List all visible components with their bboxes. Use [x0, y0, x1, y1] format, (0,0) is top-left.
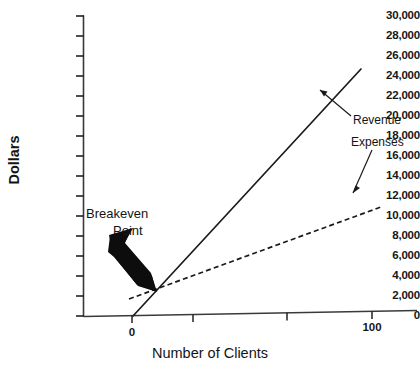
- breakeven-annotation-line1: Breakeven: [86, 207, 148, 220]
- y-tick-label: 10,000: [348, 210, 420, 222]
- x-axis-title: Number of Clients: [0, 345, 420, 361]
- y-tick-label: 6,000: [348, 250, 420, 262]
- y-tick-label: 12,000: [348, 190, 420, 202]
- series-label-expenses: Expenses: [351, 136, 404, 148]
- x-tick-label-0: 0: [120, 327, 144, 339]
- series-revenue-line: [133, 69, 361, 316]
- y-tick-label: 0: [348, 310, 420, 322]
- y-tick-label: 16,000: [348, 150, 420, 162]
- breakeven-chart: 30,000 28,000 26,000 24,000 22,000 20,00…: [0, 0, 420, 372]
- revenue-callout-leader: [320, 90, 351, 116]
- y-tick-label: 8,000: [348, 230, 420, 242]
- y-tick-label: 30,000: [348, 10, 420, 22]
- y-tick-label: 28,000: [348, 30, 420, 42]
- y-tick-label: 26,000: [348, 50, 420, 62]
- series-expenses-line: [129, 207, 381, 299]
- breakeven-annotation-line2: Point: [113, 224, 143, 237]
- x-tick-label-100: 100: [356, 322, 388, 334]
- y-tick-label: 24,000: [348, 70, 420, 82]
- y-tick-label: 2,000: [348, 290, 420, 302]
- y-tick-label: 4,000: [348, 270, 420, 282]
- y-axis-title: Dollars: [6, 120, 22, 200]
- y-tick-label: 22,000: [348, 90, 420, 102]
- y-tick-label: 14,000: [348, 170, 420, 182]
- series-label-revenue: Revenue: [353, 114, 401, 126]
